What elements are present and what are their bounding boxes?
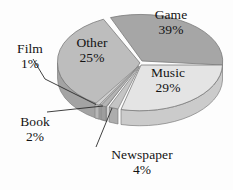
slice-label-newspaper: Newspaper 4% — [94, 148, 190, 177]
slice-label-film-name: Film — [6, 42, 54, 57]
slice-label-book-name: Book — [6, 115, 64, 130]
pie-chart: Game 39% Other 25% Music 29% Film 1% Boo… — [0, 0, 233, 190]
slice-label-book: Book 2% — [6, 115, 64, 144]
slice-label-music-value: 29% — [138, 81, 198, 96]
slice-side-book — [101, 106, 106, 121]
slice-label-book-value: 2% — [6, 130, 64, 145]
slice-label-film: Film 1% — [6, 42, 54, 71]
slice-label-game: Game 39% — [140, 8, 202, 37]
slice-label-other-name: Other — [62, 36, 122, 51]
slice-side-newspaper — [109, 107, 118, 124]
slice-label-game-value: 39% — [140, 23, 202, 38]
slice-label-music: Music 29% — [138, 66, 198, 95]
slice-label-newspaper-value: 4% — [94, 163, 190, 178]
slice-label-other-value: 25% — [62, 51, 122, 66]
slice-label-newspaper-name: Newspaper — [94, 148, 190, 163]
slice-label-other: Other 25% — [62, 36, 122, 65]
slice-label-film-value: 1% — [6, 57, 54, 72]
slice-label-music-name: Music — [138, 66, 198, 81]
slice-label-game-name: Game — [140, 8, 202, 23]
